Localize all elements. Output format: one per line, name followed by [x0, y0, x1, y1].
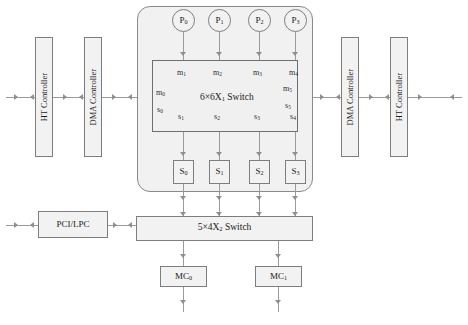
bus-arrow-left-5 — [112, 94, 116, 100]
peripheral-bus-arrow-3 — [113, 222, 117, 228]
ht-controller-right-label: HT Controller — [395, 73, 404, 121]
link-s0-xbar2-arrow-1 — [180, 196, 186, 200]
slave-s2-label: S2 — [255, 167, 263, 177]
memory-controller-mc0-label: MC0 — [175, 272, 192, 282]
dma-controller-right[interactable]: DMA Controller — [341, 37, 359, 157]
ht-controller-right[interactable]: HT Controller — [390, 37, 408, 157]
bus-arrow-left-2 — [30, 94, 34, 100]
slave-s0-label: S0 — [179, 167, 187, 177]
core-p2-label: P2 — [255, 15, 263, 25]
peripheral-bus-arrow-1 — [14, 222, 18, 228]
link-xbar-s2-arrow — [256, 152, 262, 156]
slave-s2[interactable]: S2 — [249, 160, 270, 184]
link-xbar2-mc0-arrow — [180, 254, 186, 258]
bus-arrow-left-4 — [79, 94, 83, 100]
crossbar-6x6-x1-label: 6×6X1 Switch — [200, 92, 254, 102]
bus-arrow-left-1 — [14, 94, 18, 100]
slave-s1[interactable]: S1 — [209, 160, 230, 184]
pci-lpc-block[interactable]: PCI/LPC — [38, 211, 108, 238]
core-p1-label: P1 — [215, 15, 223, 25]
port-s4: s4 — [290, 112, 296, 121]
link-xbar2-mc1-arrow — [275, 254, 281, 258]
port-m1: m1 — [177, 68, 186, 77]
core-p2[interactable]: P2 — [248, 9, 271, 32]
link-s3-xbar2-arrow-1 — [292, 196, 298, 200]
core-p3-label: P3 — [291, 15, 299, 25]
link-mc1-memory-arrow — [275, 300, 281, 304]
diagram-canvas: HT Controller DMA Controller DMA Control… — [0, 0, 468, 325]
bus-arrow-left-6 — [128, 94, 132, 100]
port-s3: s3 — [254, 112, 260, 121]
link-s1-xbar2-arrow-1 — [216, 196, 222, 200]
ht-controller-left-label: HT Controller — [40, 73, 49, 121]
link-s2-xbar2-arrow-1 — [256, 196, 262, 200]
port-m0: m0 — [156, 88, 165, 97]
link-xbar-s1-arrow — [216, 152, 222, 156]
core-p1[interactable]: P1 — [208, 9, 231, 32]
crossbar-5x4-x2[interactable]: 5×4X2 Switch — [136, 216, 313, 241]
core-p3[interactable]: P3 — [284, 9, 307, 32]
link-p0-arrow — [180, 52, 186, 56]
port-s2: s2 — [214, 112, 220, 121]
peripheral-bus-arrow-4 — [128, 222, 132, 228]
dma-controller-left[interactable]: DMA Controller — [84, 37, 102, 157]
slave-s1-label: S1 — [215, 167, 223, 177]
ht-controller-left[interactable]: HT Controller — [35, 37, 53, 157]
memory-controller-mc1[interactable]: MC1 — [255, 266, 302, 287]
crossbar-5x4-x2-label: 5×4X2 Switch — [198, 223, 252, 233]
port-m3: m3 — [253, 68, 262, 77]
slave-s3-label: S3 — [291, 167, 299, 177]
port-m5: m5 — [283, 84, 292, 93]
dma-controller-right-label: DMA Controller — [346, 69, 355, 125]
link-mc0-memory-arrow — [180, 300, 186, 304]
memory-controller-mc0[interactable]: MC0 — [160, 266, 207, 287]
link-xbar-s3-arrow — [292, 152, 298, 156]
bus-arrow-right-1 — [320, 94, 324, 100]
peripheral-bus-arrow-2 — [30, 222, 34, 228]
slave-s0[interactable]: S0 — [173, 160, 194, 184]
bus-arrow-right-4 — [385, 94, 389, 100]
slave-s3[interactable]: S3 — [285, 160, 306, 184]
dma-controller-left-label: DMA Controller — [89, 69, 98, 125]
bus-arrow-right-6 — [450, 94, 454, 100]
port-m4: m4 — [289, 68, 298, 77]
link-p3-arrow — [292, 52, 298, 56]
port-m2: m2 — [213, 68, 222, 77]
memory-controller-mc1-label: MC1 — [270, 272, 287, 282]
port-s5: s5 — [285, 101, 291, 110]
bus-arrow-left-3 — [63, 94, 67, 100]
pci-lpc-label: PCI/LPC — [56, 220, 89, 229]
core-p0-label: P0 — [179, 15, 187, 25]
bus-line-left — [6, 97, 137, 98]
port-s0: s0 — [157, 105, 163, 114]
link-p1-arrow — [216, 52, 222, 56]
port-s1: s1 — [178, 112, 184, 121]
bus-arrow-right-5 — [418, 94, 422, 100]
bus-arrow-right-3 — [369, 94, 373, 100]
bus-arrow-right-2 — [336, 94, 340, 100]
core-p0[interactable]: P0 — [172, 9, 195, 32]
link-xbar-s0-arrow — [180, 152, 186, 156]
link-p2-arrow — [256, 52, 262, 56]
